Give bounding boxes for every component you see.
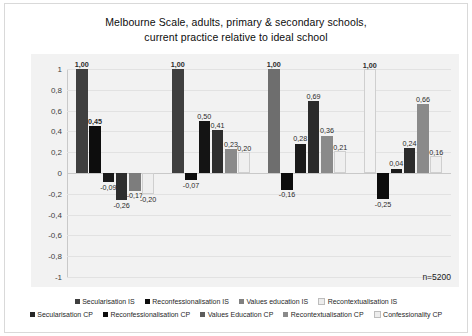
chart-bar: 0,45 [89,126,101,173]
bar-value-label: 0,66 [416,95,430,104]
plot-inner: 10,80,60,40,20-0,2-0,4-0,6-0,8-1 1,000,4… [67,69,451,277]
chart-bar: 1,00 [364,69,376,173]
legend-label: Values Education CP [208,311,274,318]
legend-label: Secularisation CP [37,311,93,318]
chart-bar: 0,50 [199,121,211,173]
legend-swatch-icon [374,311,381,318]
legend-item[interactable]: Secularisation IS [75,298,135,305]
legend-item[interactable]: Reconfessionalisation IS [145,298,229,305]
gridline [67,277,451,278]
chart-bar: 0,28 [295,144,307,173]
y-axis-tick-label: 0,6 [51,106,62,115]
y-axis-tick-label: 0,8 [51,85,62,94]
chart-bar: 0,20 [238,152,250,173]
legend-row-cp: Secularisation CPReconfessionalisation C… [5,308,467,321]
chart-bar: -0,09 [103,173,115,182]
bar-value-label: 0,20 [237,144,251,153]
y-axis-tick-label: 0 [58,169,62,178]
legend-label: Reconfessionalisation CP [110,311,190,318]
chart-bar: -0,17 [129,173,141,191]
legend-swatch-icon [75,299,80,304]
bar-value-label: -0,07 [183,181,199,190]
y-axis-tick-label: -0,4 [48,210,62,219]
legend-item[interactable]: Recontextualisation CP [283,311,363,318]
y-axis-tick-label: 1 [58,65,62,74]
bar-value-label: -0,25 [375,200,391,209]
chart-bar: 1,00 [172,69,184,173]
chart-legend: Secularisation ISReconfessionalisation I… [5,295,467,321]
legend-swatch-icon [30,312,35,317]
chart-title: Melbourne Scale, adults, primary & secon… [5,15,467,45]
chart-bar: 0,69 [308,101,320,173]
chart-bar: 0,41 [212,130,224,173]
legend-swatch-icon [318,298,325,305]
legend-label: Confessionality CP [383,311,442,318]
legend-row-is: Secularisation ISReconfessionalisation I… [5,295,467,308]
legend-label: Secularisation IS [82,298,135,305]
legend-label: Recontextualisation IS [328,298,398,305]
bar-value-label: 0,23 [224,140,238,149]
bar-value-label: 0,28 [293,134,307,143]
chart-bar: 0,66 [417,104,429,173]
bar-value-label: 0,36 [320,126,334,135]
bar-value-label: 0,21 [333,143,347,152]
chart-bar: -0,07 [185,173,197,180]
bar-value-label: 1,00 [267,60,281,69]
legend-swatch-icon [200,312,205,317]
legend-label: Recontextualisation CP [291,311,364,318]
chart-bar: 0,24 [404,148,416,173]
bar-group: 1,00-0,070,500,410,230,20 [163,69,259,277]
chart-bar: 0,16 [430,156,442,173]
bar-value-label: 0,16 [429,148,443,157]
bar-value-label: 0,50 [197,112,211,121]
chart-title-line-1: Melbourne Scale, adults, primary & secon… [5,15,467,30]
y-axis-tick-label: 0,4 [51,127,62,136]
y-axis-tick-label: 0,2 [51,148,62,157]
legend-item[interactable]: Values education IS [239,298,308,305]
legend-label: Reconfessionalisation IS [152,298,229,305]
y-axis-tick-label: -1 [55,273,62,282]
chart-bar: -0,26 [116,173,128,200]
bar-value-label: 0,24 [403,139,417,148]
bar-value-label: -0,16 [279,190,295,199]
sample-size-annotation: n=5200 [422,272,451,282]
bar-value-label: -0,26 [113,201,129,210]
legend-item[interactable]: Recontextualisation IS [318,298,397,305]
chart-bar: 0,36 [321,136,333,173]
bar-value-label: 1,00 [75,60,89,69]
legend-item[interactable]: Secularisation CP [30,311,93,318]
y-axis-tick-label: -0,8 [48,252,62,261]
bar-value-label: -0,20 [140,195,156,204]
bar-value-label: 0,45 [88,117,102,126]
bar-group: 1,000,45-0,09-0,26-0,17-0,20 [67,69,163,277]
plot-area: 10,80,60,40,20-0,2-0,4-0,6-0,8-1 1,000,4… [31,54,459,287]
legend-swatch-icon [283,312,288,317]
chart-bar: -0,25 [377,173,389,199]
y-axis-tick-label: -0,6 [48,231,62,240]
bar-value-label: 1,00 [363,61,377,70]
legend-item[interactable]: Confessionality CP [374,311,443,318]
chart-bar: 0,04 [391,169,403,173]
legend-swatch-icon [103,312,108,317]
legend-swatch-icon [239,299,244,304]
chart-bar: -0,16 [281,173,293,190]
bar-group: 1,00-0,250,040,240,660,16 [355,69,451,277]
bar-group: 1,00-0,160,280,690,360,21 [259,69,355,277]
chart-bar: -0,20 [142,173,154,194]
y-axis-tick-label: -0,2 [48,189,62,198]
chart-title-line-2: current practice relative to ideal schoo… [5,30,467,45]
chart-bar: 0,23 [225,149,237,173]
legend-label: Values education IS [246,298,308,305]
bar-value-label: 1,00 [171,60,185,69]
bar-value-label: 0,69 [307,92,321,101]
legend-item[interactable]: Reconfessionalisation CP [103,311,190,318]
legend-swatch-icon [145,299,150,304]
bar-value-label: 0,41 [211,121,225,130]
chart-bar: 0,21 [334,151,346,173]
bar-value-label: -0,09 [100,183,116,192]
chart-bar: 1,00 [268,69,280,173]
legend-item[interactable]: Values Education CP [200,311,273,318]
chart-bar: 1,00 [76,69,88,173]
chart-container: Melbourne Scale, adults, primary & secon… [4,3,468,333]
bar-value-label: 0,04 [389,159,403,168]
